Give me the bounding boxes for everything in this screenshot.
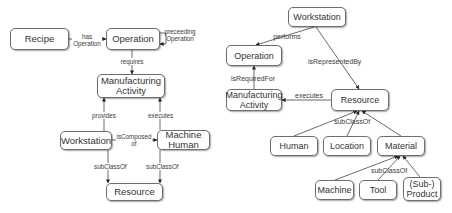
- label-performs: performs: [272, 33, 302, 40]
- node-label: Manufacturing Activity: [225, 90, 282, 110]
- node-manufacturing-activity: Manufacturing Activity: [97, 74, 165, 98]
- label-subclassof-resource: subClassOf: [333, 118, 371, 125]
- node-operation-right: Operation: [226, 45, 282, 66]
- label-requires: requires: [120, 58, 144, 65]
- node-workstation-right: Workstation: [288, 7, 346, 27]
- node-label: Human: [279, 141, 308, 151]
- node-workstation: Workstation: [60, 131, 112, 150]
- node-machine: Machine: [315, 180, 354, 200]
- node-label: Recipe: [25, 34, 55, 44]
- node-label: Tool: [370, 185, 387, 195]
- node-label: Machine Human: [166, 130, 202, 150]
- node-manufacturing-activity-right: Manufacturing Activity: [226, 89, 282, 111]
- label-has-operation: has Operation: [72, 33, 102, 47]
- node-label: Manufacturing Activity: [101, 76, 161, 96]
- node-label: Resource: [114, 187, 155, 197]
- node-label: Operation: [234, 51, 274, 61]
- label-subclassof-mh: subClassOf: [146, 163, 174, 170]
- node-operation: Operation: [106, 28, 160, 50]
- label-executes-right: executes: [294, 92, 324, 99]
- node-human: Human: [270, 136, 318, 156]
- node-label: Operation: [112, 34, 154, 44]
- node-label: Workstation: [61, 136, 111, 146]
- node-sub-product: (Sub-) Product: [403, 177, 441, 201]
- node-label: Machine: [317, 185, 351, 195]
- node-recipe: Recipe: [10, 28, 69, 50]
- node-machine-human: Machine Human: [157, 130, 210, 150]
- node-resource-right: Resource: [331, 89, 389, 111]
- node-label: Workstation: [293, 12, 340, 22]
- node-label: Location: [330, 141, 364, 151]
- label-is-required-for: isRequiredFor: [230, 75, 276, 82]
- node-label: Material: [385, 141, 417, 151]
- node-material: Material: [377, 136, 425, 156]
- node-tool: Tool: [359, 180, 397, 200]
- node-location: Location: [323, 136, 371, 156]
- node-label: Resource: [341, 95, 380, 105]
- label-subclassof-material: subClassOf: [370, 167, 408, 174]
- node-label: (Sub-) Product: [406, 179, 437, 199]
- label-preceeding-operation: preceeding Operation: [162, 28, 198, 42]
- label-provides: provides: [92, 112, 116, 119]
- label-subclassof-ws: subClassOf: [94, 163, 122, 170]
- node-resource: Resource: [106, 183, 163, 201]
- label-is-represented-by: isRepresentedBy: [308, 58, 360, 65]
- label-executes-left: executes: [148, 112, 172, 119]
- label-is-composed-of: isComposed of: [116, 133, 152, 147]
